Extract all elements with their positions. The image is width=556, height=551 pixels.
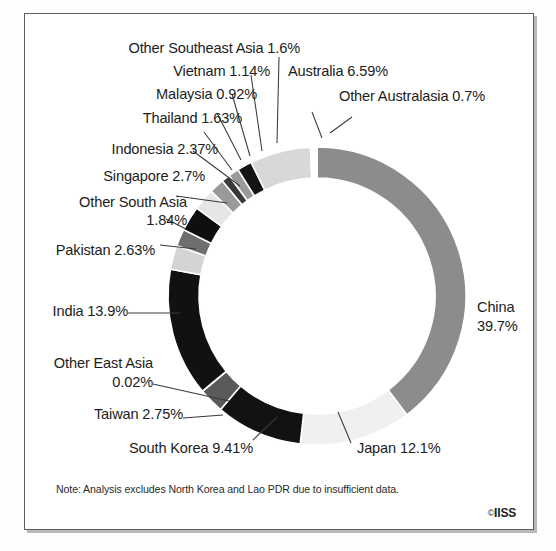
callout-singapore: Singapore 2.7% [28, 168, 205, 185]
callout-japan: Japan 12.1% [357, 440, 441, 457]
figure-note: Note: Analysis excludes North Korea and … [56, 483, 476, 495]
callout-other-south-asia: Other South Asia [20, 194, 187, 211]
callout-other-east-asia-value: 0.02% [14, 374, 153, 391]
iiss-label: IISS [494, 506, 516, 520]
figure-page: Other Southeast Asia 1.6% Vietnam 1.14% … [0, 0, 556, 551]
donut-slices [168, 147, 466, 445]
donut-slice-china[interactable] [317, 147, 466, 415]
callout-other-australasia: Other Australasia 0.7% [339, 88, 485, 105]
callout-taiwan: Taiwan 2.75% [28, 406, 183, 423]
donut-chart: Other Southeast Asia 1.6% Vietnam 1.14% … [0, 0, 556, 551]
callout-other-southeast-asia: Other Southeast Asia 1.6% [40, 40, 300, 57]
callout-other-south-asia-value: 1.84% [20, 212, 187, 229]
callout-india: India 13.9% [12, 303, 128, 320]
donut-slice-india[interactable] [168, 269, 226, 391]
callout-vietnam: Vietnam 1.14% [40, 63, 270, 80]
callout-pakistan: Pakistan 2.63% [12, 242, 155, 259]
callout-indonesia: Indonesia 2.37% [28, 141, 218, 158]
callout-china: China [477, 299, 514, 316]
callout-malaysia: Malaysia 0.92% [40, 86, 257, 103]
callout-thailand: Thailand 1.63% [40, 110, 242, 127]
callout-south-korea: South Korea 9.41% [40, 440, 253, 457]
callout-china-value: 39.7% [477, 318, 518, 335]
iiss-credit: ©IISS [488, 506, 516, 520]
donut-svg [0, 0, 556, 551]
donut-slice-other-australasia[interactable] [310, 147, 317, 178]
callout-other-east-asia: Other East Asia [14, 355, 153, 372]
callout-australia: Australia 6.59% [288, 63, 388, 80]
donut-slice-japan[interactable] [300, 390, 407, 445]
